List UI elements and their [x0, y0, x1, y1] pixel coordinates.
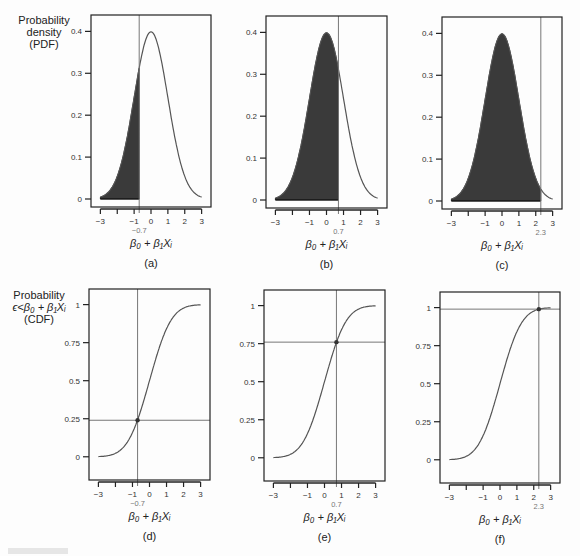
panel-label: (e)	[318, 531, 331, 543]
x-axis-title: β₀ + β₁Xᵢ	[303, 511, 347, 523]
x-tick-label: −3	[271, 218, 281, 227]
y-tick-label: 1	[427, 304, 432, 313]
x-tick-label: −1	[303, 491, 313, 500]
y-tick-label: 0.25	[415, 418, 431, 427]
x-tick-label: 3	[199, 217, 204, 226]
y-tick-label: 0	[427, 456, 432, 465]
y-tick-label: 0.25	[239, 416, 255, 425]
x-tick-label: 3	[375, 218, 380, 227]
y-tick-label: 0	[76, 453, 81, 462]
x-tick-label: 1	[166, 217, 171, 226]
x-tick-label: −3	[96, 217, 106, 226]
x-tick-label: −1	[130, 217, 140, 226]
x-tick-label: 3	[548, 493, 553, 502]
x-tick-label: −3	[447, 219, 457, 228]
y-tick-label: 0.2	[422, 113, 434, 122]
panel-label: (d)	[143, 530, 156, 542]
x-tick-label: 0	[324, 218, 329, 227]
x-tick-label: 1	[341, 218, 346, 227]
cdf-curve	[98, 305, 200, 457]
x-tick-label: 2	[356, 491, 361, 500]
x-tick-label: 2	[183, 217, 188, 226]
cutoff-label: −0.7	[130, 499, 145, 508]
x-tick-label: −3	[269, 491, 279, 500]
panel-a: 00.10.20.30.4−3−10123−0.7β₀ + β₁Xᵢ(a)	[71, 15, 211, 269]
intersection-point	[135, 418, 139, 422]
y-tick-label: 0.4	[71, 27, 83, 36]
panel-b: 00.10.20.30.4−3−101230.7β₀ + β₁Xᵢ(b)	[246, 16, 387, 270]
figure: Probability density (PDF) Probability ϵ<…	[0, 0, 580, 556]
x-tick-label: 2	[532, 493, 537, 502]
x-tick-label: −1	[481, 219, 491, 228]
figure-caption-fragment	[8, 548, 68, 554]
y-tick-label: 0	[429, 197, 434, 206]
y-tick-label: 0.5	[420, 380, 432, 389]
y-tick-label: 0.3	[422, 71, 434, 80]
cutoff-label: 0.7	[333, 227, 343, 236]
y-tick-label: 0.2	[246, 112, 258, 121]
plot-frame	[91, 15, 211, 207]
cdf-curve	[273, 306, 375, 458]
x-tick-label: 3	[198, 490, 203, 499]
shaded-area	[451, 34, 540, 201]
panel-e: 00.250.50.751−3−101230.7β₀ + β₁Xᵢ(e)	[239, 290, 385, 543]
x-tick-label: 0	[149, 217, 154, 226]
y-tick-label: 0.4	[246, 28, 258, 37]
x-tick-label: −1	[479, 493, 489, 502]
y-tick-label: 0	[253, 196, 258, 205]
y-tick-label: 0.3	[246, 70, 258, 79]
intersection-point	[334, 340, 338, 344]
y-tick-label: 0.1	[71, 153, 83, 162]
cdf-curve	[449, 308, 550, 460]
plot-frame	[89, 289, 210, 480]
y-tick-label: 1	[251, 302, 256, 311]
y-tick-label: 0.75	[239, 340, 255, 349]
x-axis-title: β₀ + β₁Xᵢ	[305, 238, 349, 250]
y-tick-label: 0.1	[422, 155, 434, 164]
x-tick-label: 2	[181, 490, 186, 499]
y-tick-label: 0.4	[422, 29, 434, 38]
cutoff-label: 2.3	[536, 228, 546, 237]
x-tick-label: 1	[515, 493, 520, 502]
x-axis-title: β₀ + β₁Xᵢ	[480, 239, 524, 251]
x-tick-label: 0	[147, 490, 152, 499]
panel-label: (f)	[495, 533, 505, 545]
x-tick-label: 1	[164, 490, 169, 499]
cutoff-label: 0.7	[331, 500, 341, 509]
x-tick-label: 0	[500, 219, 505, 228]
plot-frame	[264, 290, 385, 481]
x-tick-label: 2	[358, 218, 363, 227]
x-tick-label: −1	[128, 490, 138, 499]
x-tick-label: 1	[517, 219, 522, 228]
x-tick-label: 0	[498, 493, 503, 502]
x-tick-label: −3	[94, 490, 104, 499]
y-tick-label: 0.5	[244, 378, 256, 387]
pdf-curve	[100, 32, 201, 197]
y-tick-label: 0.2	[71, 111, 83, 120]
x-axis-title: β₀ + β₁Xᵢ	[128, 510, 172, 522]
panel-label: (a)	[144, 257, 157, 269]
x-tick-label: −1	[305, 218, 315, 227]
panel-f: 00.250.50.751−3−101232.3β₀ + β₁Xᵢ(f)	[415, 292, 560, 545]
x-axis-title: β₀ + β₁Xᵢ	[129, 237, 173, 249]
panel-label: (c)	[496, 259, 509, 271]
cutoff-label: 2.3	[534, 502, 544, 511]
intersection-point	[537, 307, 541, 311]
panel-c: 00.10.20.30.4−3−101232.3β₀ + β₁Xᵢ(c)	[422, 17, 562, 271]
cutoff-label: −0.7	[132, 226, 147, 235]
y-tick-label: 0	[251, 454, 256, 463]
plots-canvas: 00.10.20.30.4−3−10123−0.7β₀ + β₁Xᵢ(a)00.…	[0, 0, 580, 556]
x-tick-label: 1	[339, 491, 344, 500]
y-tick-label: 0.75	[64, 339, 80, 348]
panel-label: (b)	[320, 258, 333, 270]
shaded-area	[100, 68, 139, 199]
y-tick-label: 0.75	[415, 342, 431, 351]
plot-frame	[440, 292, 560, 483]
panel-d: 00.250.50.751−3−10123−0.7β₀ + β₁Xᵢ(d)	[64, 289, 210, 542]
x-tick-label: −3	[445, 493, 455, 502]
y-tick-label: 0.25	[64, 415, 80, 424]
x-tick-label: 3	[550, 219, 555, 228]
y-tick-label: 0.3	[71, 69, 83, 78]
y-tick-label: 0.5	[69, 377, 81, 386]
y-tick-label: 0	[78, 195, 83, 204]
